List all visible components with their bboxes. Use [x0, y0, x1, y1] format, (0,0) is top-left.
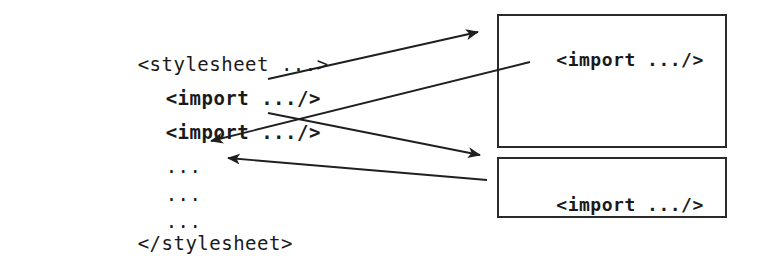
- code-line-close-tag: </stylesheet>: [66, 215, 293, 258]
- code-text: </stylesheet>: [138, 232, 293, 254]
- imported-stylesheet-label-2: <import .../>: [511, 178, 704, 232]
- imported-stylesheet-label-1: <import .../>: [511, 33, 704, 87]
- arrow-box2-to-source: [228, 158, 487, 180]
- box-label-text: <import .../>: [556, 49, 703, 70]
- box-label-text: <import .../>: [556, 194, 703, 215]
